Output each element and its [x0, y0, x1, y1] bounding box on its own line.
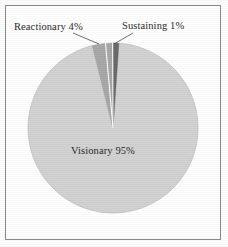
- slice-label-visionary: Visionary 95%: [71, 145, 135, 156]
- slice-label-sustaining: Sustaining 1%: [122, 20, 184, 31]
- pie-chart-figure: Reactionary 4% Sustaining 1% Visionary 9…: [0, 0, 228, 247]
- leader-line-reactionary: [73, 33, 99, 44]
- slice-label-reactionary: Reactionary 4%: [14, 21, 83, 32]
- leader-line-sustaining: [114, 33, 133, 44]
- pie-chart-plot: [0, 0, 228, 247]
